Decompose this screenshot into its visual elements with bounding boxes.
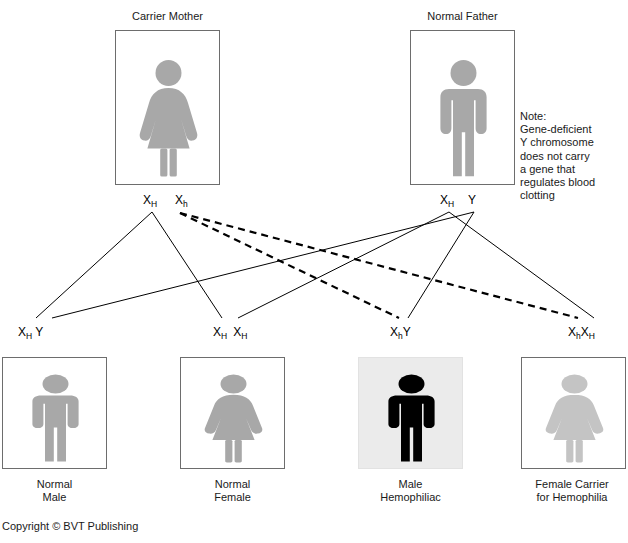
normal-female-box bbox=[180, 357, 285, 469]
carrier-mother-caption: Carrier Mother bbox=[115, 10, 220, 23]
mother-allele-XH: XH bbox=[143, 193, 157, 207]
mother-allele-Xh: Xh bbox=[175, 193, 188, 207]
male-figure-icon bbox=[3, 358, 108, 470]
inheritance-line-mother-allele-XH-to-normal-male bbox=[36, 212, 152, 318]
inheritance-line-father-allele-Y-to-normal-male bbox=[52, 212, 474, 318]
female-figure-icon bbox=[116, 31, 221, 186]
male-figure-icon bbox=[359, 358, 464, 470]
normal-female-genotype: XHXH bbox=[213, 325, 247, 339]
male-hemophiliac-box bbox=[358, 357, 463, 469]
inheritance-line-mother-allele-XH-to-normal-female bbox=[152, 212, 222, 318]
inheritance-line-mother-allele-Xh-to-female-carrier bbox=[180, 213, 578, 318]
inheritance-line-mother-allele-Xh-to-male-hemophiliac bbox=[180, 213, 399, 318]
male-figure-icon bbox=[411, 31, 516, 186]
carrier-mother-box bbox=[115, 30, 220, 185]
normal-male-caption: Normal Male bbox=[2, 478, 107, 504]
copyright-text: Copyright © BVT Publishing bbox=[2, 520, 138, 533]
male-hemophiliac-caption: Male Hemophiliac bbox=[358, 478, 463, 504]
note-text: Note: Gene-deficient Y chromosome does n… bbox=[520, 110, 624, 202]
normal-father-caption: Normal Father bbox=[410, 10, 515, 23]
inheritance-line-father-allele-Y-to-male-hemophiliac bbox=[408, 212, 474, 318]
normal-male-box bbox=[2, 357, 107, 469]
father-allele-XH: XH bbox=[440, 193, 454, 207]
normal-female-caption: Normal Female bbox=[180, 478, 285, 504]
genetics-inheritance-diagram: Carrier Mother Normal Father Note: Gene-… bbox=[0, 0, 628, 543]
inheritance-line-father-allele-XH-to-female-carrier bbox=[449, 212, 594, 318]
female-figure-icon bbox=[522, 358, 627, 470]
normal-father-box bbox=[410, 30, 515, 185]
normal-male-genotype: XHY bbox=[18, 325, 43, 339]
female-carrier-box bbox=[521, 357, 626, 469]
female-carrier-genotype: XhXH bbox=[568, 325, 595, 339]
male-hemophiliac-genotype: XhY bbox=[390, 325, 411, 339]
father-allele-Y: Y bbox=[468, 193, 476, 207]
female-carrier-caption: Female Carrier for Hemophilia bbox=[518, 478, 626, 504]
female-figure-icon bbox=[181, 358, 286, 470]
inheritance-line-father-allele-XH-to-normal-female bbox=[238, 212, 449, 318]
